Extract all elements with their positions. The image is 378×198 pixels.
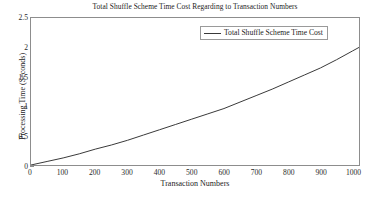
legend-box: Total Shuffle Scheme Time Cost <box>200 26 328 40</box>
x-tick-label: 600 <box>218 168 229 177</box>
y-tick-label: 2.5 <box>0 13 28 22</box>
x-tick-label: 0 <box>28 168 32 177</box>
x-tick-label: 800 <box>283 168 294 177</box>
y-tick-label: 2 <box>0 42 28 51</box>
x-tick-label: 300 <box>121 168 132 177</box>
x-tick-label: 200 <box>89 168 100 177</box>
x-tick-label: 700 <box>251 168 262 177</box>
chart-title: Total Shuffle Scheme Time Cost Regarding… <box>30 2 360 11</box>
series-line-total-shuffle-scheme-time-cost <box>31 47 359 165</box>
legend-entry-label: Total Shuffle Scheme Time Cost <box>224 29 323 37</box>
y-tick-mark <box>30 166 34 167</box>
x-tick-label: 100 <box>57 168 68 177</box>
y-tick-label: 1 <box>0 102 28 111</box>
x-tick-label: 500 <box>186 168 197 177</box>
y-tick-label: 0 <box>0 162 28 171</box>
x-axis-label: Transaction Numbers <box>30 179 360 188</box>
y-tick-label: 1.5 <box>0 72 28 81</box>
x-tick-label: 400 <box>154 168 165 177</box>
series-curve-svg <box>31 18 359 165</box>
x-tick-label: 900 <box>315 168 326 177</box>
x-tick-label: 1000 <box>346 168 361 177</box>
chart-figure: Total Shuffle Scheme Time Cost Regarding… <box>0 0 378 198</box>
legend-line-sample-icon <box>204 33 221 34</box>
y-tick-label: 0.5 <box>0 132 28 141</box>
